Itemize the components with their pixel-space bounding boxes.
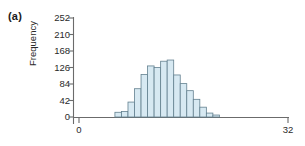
histogram-bar	[193, 99, 200, 117]
histogram-bar	[213, 115, 220, 117]
histogram-bar	[206, 113, 213, 117]
histogram-plot	[0, 0, 305, 146]
histogram-bar	[200, 107, 207, 117]
histogram-bar	[154, 68, 161, 118]
histogram-bar	[115, 112, 122, 117]
histogram-bar	[161, 61, 168, 117]
x-tick-label: 0	[76, 124, 81, 135]
histogram-bar	[180, 84, 187, 117]
histogram-bar	[167, 60, 174, 117]
figure-panel-a: (a) Frequency 04284126168210252 032	[0, 0, 305, 146]
x-tick-label: 32	[283, 124, 294, 135]
histogram-bar	[128, 102, 135, 117]
histogram-bar	[174, 75, 181, 117]
histogram-bar	[121, 112, 128, 118]
histogram-bars	[115, 60, 220, 117]
histogram-bar	[135, 89, 142, 117]
histogram-bar	[187, 91, 194, 117]
histogram-bar	[141, 75, 148, 117]
histogram-bar	[148, 66, 155, 117]
